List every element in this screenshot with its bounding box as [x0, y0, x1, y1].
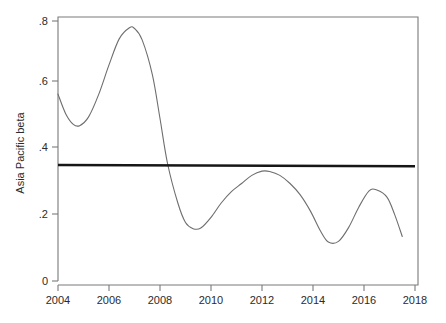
y-axis-title: Asia Pacific beta [14, 111, 26, 193]
y-tick-label-0: .8 [39, 15, 48, 27]
x-tick-label-2018: 2018 [403, 294, 427, 306]
line-chart: Asia Pacific beta .8 .6 .4 .2 0 2004 200… [0, 0, 446, 323]
y-tick-label-3: .2 [39, 208, 48, 220]
x-tick-label-2014: 2014 [301, 294, 325, 306]
y-tick-label-1: .6 [39, 75, 48, 87]
x-tick-label-2012: 2012 [250, 294, 274, 306]
x-tick-label-2008: 2008 [148, 294, 172, 306]
beta-curve [58, 27, 402, 244]
x-tick-label-2006: 2006 [97, 294, 121, 306]
chart-container: Asia Pacific beta .8 .6 .4 .2 0 2004 200… [0, 0, 446, 323]
y-tick-label-2: .4 [39, 141, 48, 153]
x-tick-label-2004: 2004 [46, 294, 70, 306]
y-tick-label-4: 0 [42, 275, 48, 287]
x-tick-label-2016: 2016 [352, 294, 376, 306]
mean-reference-line [58, 165, 415, 166]
x-tick-label-2010: 2010 [199, 294, 223, 306]
